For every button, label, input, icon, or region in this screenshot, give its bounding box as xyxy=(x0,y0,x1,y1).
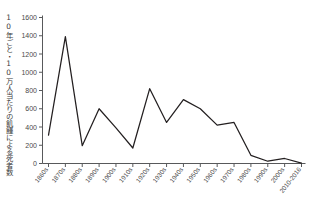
x-tick-label: 1930s xyxy=(151,166,167,184)
y-tick-label: 1000 xyxy=(21,69,37,76)
y-tick-label: 0 xyxy=(33,160,37,167)
x-tick-label: 1970s xyxy=(219,166,235,184)
y-tick-label-group: 02004006008001000120014001600 xyxy=(21,14,37,167)
y-tick-label: 1400 xyxy=(21,32,37,39)
x-tick-label: 1980s xyxy=(235,166,251,184)
x-tick-label: 1950s xyxy=(185,166,201,184)
x-tick-label: 1870s xyxy=(50,166,66,184)
data-series-line xyxy=(49,37,302,163)
x-tick-label: 1910s xyxy=(117,166,133,184)
x-tick-label: 1960s xyxy=(202,166,218,184)
y-tick-label: 1200 xyxy=(21,51,37,58)
y-axis-label: 10年ごと・10万人当たりの飢饉による死者数 xyxy=(2,14,15,174)
x-tick-label-group: 1860s1870s1880s1890s1900s1910s1920s1930s… xyxy=(33,165,303,194)
x-tick-label: 2000s xyxy=(269,166,285,184)
y-axis-label-text: 10年ごと・10万人当たりの飢饉による死者数 xyxy=(5,13,12,175)
chart-svg: 02004006008001000120014001600 1860s1870s… xyxy=(0,0,315,210)
y-tick-label: 600 xyxy=(25,105,37,112)
y-tick-label: 1600 xyxy=(21,14,37,21)
x-tick-label: 1900s xyxy=(101,166,117,184)
x-tick-label: 1860s xyxy=(33,166,49,184)
y-tick-label: 400 xyxy=(25,124,37,131)
x-tick-label: 1880s xyxy=(67,166,83,184)
x-tick-label: 1940s xyxy=(168,166,184,184)
y-tick-label: 800 xyxy=(25,87,37,94)
x-tick-label: 1920s xyxy=(134,166,150,184)
y-tick-label: 200 xyxy=(25,142,37,149)
famine-deaths-line-chart: 10年ごと・10万人当たりの飢饉による死者数 02004006008001000… xyxy=(0,0,315,210)
x-tick-label: 1890s xyxy=(84,166,100,184)
y-tick-mark-group xyxy=(39,18,43,164)
x-tick-label: 1990s xyxy=(252,166,268,184)
